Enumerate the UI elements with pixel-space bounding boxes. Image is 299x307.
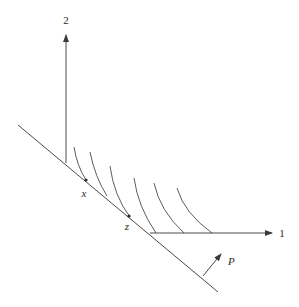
diagram-canvas: 2 1 x z P	[0, 0, 299, 307]
price-vector-arrow	[203, 254, 221, 276]
point-z: z	[124, 214, 131, 232]
vertical-axis-label: 2	[63, 14, 69, 26]
point-x-marker	[84, 178, 87, 181]
budget-line	[18, 125, 218, 292]
point-z-label: z	[124, 220, 130, 232]
indifference-curve-2	[90, 152, 107, 196]
indifference-curve-1	[74, 147, 86, 180]
indifference-curve-6	[177, 188, 212, 233]
price-vector-label: P	[227, 255, 235, 267]
horizontal-axis-label: 1	[279, 227, 285, 239]
indifference-curve-3	[110, 166, 130, 217]
point-x-label: x	[81, 187, 87, 199]
point-z-marker	[127, 214, 130, 217]
indifference-curve-5	[154, 183, 184, 233]
indifference-curves	[74, 147, 212, 233]
point-x: x	[81, 178, 88, 199]
